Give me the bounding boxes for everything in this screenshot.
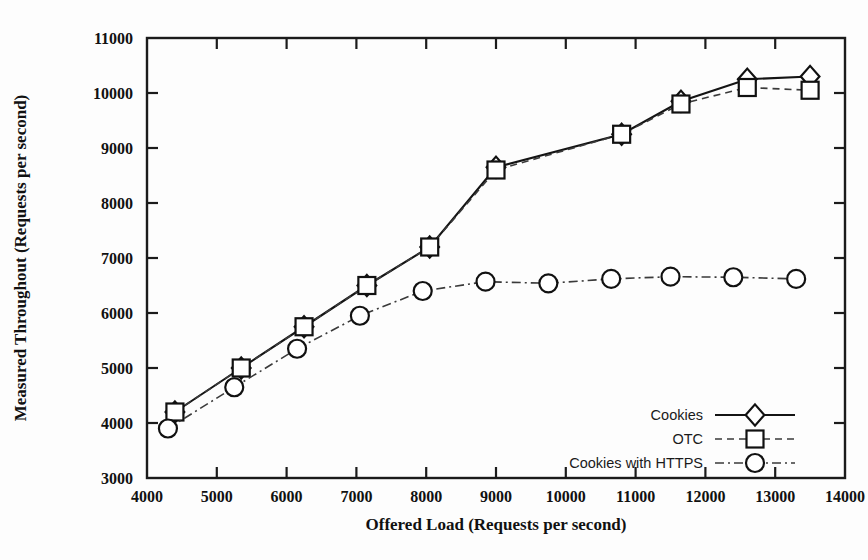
data-point	[662, 268, 680, 286]
data-point	[351, 307, 369, 325]
data-point	[421, 239, 438, 256]
plot-frame	[147, 38, 845, 478]
data-point	[414, 282, 432, 300]
chart-container: 3000400050006000700080009000100001100040…	[0, 0, 868, 560]
data-point	[288, 340, 306, 358]
data-point	[613, 126, 630, 143]
data-point	[672, 96, 689, 113]
data-point	[488, 162, 505, 179]
x-axis-tick-label: 13000	[755, 488, 795, 505]
x-axis-tick-label: 5000	[201, 488, 233, 505]
series-cookies	[166, 66, 820, 423]
y-axis-tick-label: 7000	[101, 250, 133, 267]
data-point	[159, 420, 177, 438]
x-axis-tick-label: 7000	[340, 488, 372, 505]
legend-label: Cookies	[651, 407, 703, 423]
series-line	[175, 77, 810, 413]
data-point	[296, 318, 313, 335]
x-axis-tick-label: 12000	[685, 488, 725, 505]
legend-marker	[746, 404, 765, 425]
y-axis-tick-label: 5000	[101, 360, 133, 377]
series-otc	[166, 79, 818, 421]
data-point	[233, 360, 250, 377]
x-axis-tick-label: 4000	[131, 488, 163, 505]
data-point	[166, 404, 183, 421]
x-axis-tick-label: 6000	[271, 488, 303, 505]
series-cookies-with-https	[159, 268, 805, 438]
y-axis-tick-label: 3000	[101, 470, 133, 487]
y-axis-tick-label: 6000	[101, 305, 133, 322]
y-axis-tick-label: 8000	[101, 195, 133, 212]
legend: CookiesOTCCookies with HTTPS	[569, 404, 795, 472]
x-axis-tick-label: 14000	[825, 488, 865, 505]
legend-label: OTC	[672, 431, 703, 447]
y-axis-tick-label: 11000	[94, 30, 133, 47]
throughput-line-chart: 3000400050006000700080009000100001100040…	[0, 0, 868, 560]
data-point	[602, 270, 620, 288]
x-axis-title: Offered Load (Requests per second)	[366, 515, 627, 534]
y-axis-title: Measured Throughout (Requests per second…	[11, 95, 30, 422]
data-point	[739, 79, 756, 96]
data-point	[225, 378, 243, 396]
y-axis-tick-label: 10000	[93, 85, 133, 102]
x-axis-tick-label: 10000	[546, 488, 586, 505]
data-point	[477, 273, 495, 291]
legend-marker	[747, 431, 764, 448]
legend-marker	[746, 454, 764, 472]
data-point	[358, 277, 375, 294]
y-axis-tick-label: 9000	[101, 140, 133, 157]
series-line	[168, 277, 796, 429]
x-axis-tick-label: 9000	[480, 488, 512, 505]
series-line	[175, 88, 810, 413]
legend-label: Cookies with HTTPS	[569, 455, 703, 471]
y-axis-tick-label: 4000	[101, 415, 133, 432]
data-point	[539, 274, 557, 292]
data-point	[802, 82, 819, 99]
data-point	[787, 270, 805, 288]
x-axis-tick-label: 8000	[410, 488, 442, 505]
x-axis-tick-label: 11000	[616, 488, 655, 505]
data-point	[724, 268, 742, 286]
